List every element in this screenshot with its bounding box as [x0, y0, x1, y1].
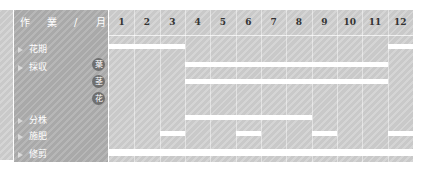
triangle-bullet-icon — [18, 152, 23, 158]
task-label-column: 作 業 / 月 花期採収葉茎花分株施肥修剪 — [14, 10, 108, 162]
header-char: / — [74, 10, 77, 35]
task-label: 施肥 — [18, 130, 47, 142]
header-char: 業 — [47, 10, 57, 35]
month-header: 11 — [362, 10, 387, 35]
schedule-bar — [236, 131, 261, 136]
month-divider — [286, 10, 287, 162]
triangle-bullet-icon — [18, 134, 23, 140]
month-header: 9 — [312, 10, 337, 35]
task-label-text: 花期 — [29, 44, 47, 54]
month-divider — [210, 10, 211, 162]
task-label: 花期 — [18, 43, 47, 55]
triangle-bullet-icon — [18, 47, 23, 53]
task-label-text: 分株 — [29, 115, 47, 125]
task-label-text: 施肥 — [29, 131, 47, 141]
month-header: 1 — [109, 10, 134, 35]
month-divider — [134, 10, 135, 162]
month-divider — [160, 10, 161, 162]
month-divider — [236, 10, 237, 162]
task-label: 採収 — [18, 61, 47, 73]
month-divider — [312, 10, 313, 162]
month-header: 4 — [185, 10, 210, 35]
task-label: 分株 — [18, 114, 47, 126]
month-grid: 123456789101112 — [109, 10, 413, 162]
part-badge: 茎 — [92, 75, 105, 88]
schedule-bar — [312, 131, 337, 136]
triangle-bullet-icon — [18, 65, 23, 71]
month-divider — [362, 10, 363, 162]
schedule-bar — [185, 115, 312, 120]
month-header: 6 — [236, 10, 261, 35]
schedule-bar — [160, 131, 185, 136]
month-header: 5 — [210, 10, 235, 35]
month-header: 2 — [134, 10, 159, 35]
month-header: 8 — [286, 10, 311, 35]
triangle-bullet-icon — [18, 118, 23, 124]
schedule-bar — [109, 44, 185, 49]
task-label: 修剪 — [18, 148, 47, 160]
month-header: 7 — [261, 10, 286, 35]
month-divider — [185, 10, 186, 162]
task-label-text: 修剪 — [29, 149, 47, 159]
task-label-text: 採収 — [29, 62, 47, 72]
header-char: 月 — [96, 10, 106, 35]
schedule-bar — [388, 44, 413, 49]
part-badge: 葉 — [92, 58, 105, 71]
month-divider — [388, 10, 389, 162]
month-divider — [261, 10, 262, 162]
part-badge: 花 — [92, 92, 105, 105]
header-label: 作 業 / 月 — [14, 10, 108, 35]
month-header: 3 — [160, 10, 185, 35]
left-edge-decoration — [0, 10, 13, 160]
month-header: 12 — [388, 10, 413, 35]
header-char: 作 — [20, 10, 30, 35]
schedule-bar — [388, 131, 413, 136]
month-header: 10 — [337, 10, 362, 35]
month-divider — [337, 10, 338, 162]
